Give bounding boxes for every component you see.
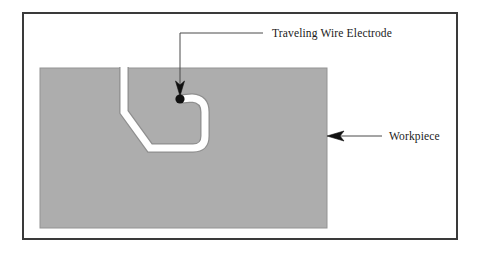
figure-container: Traveling Wire Electrode Workpiece bbox=[0, 0, 481, 254]
diagram-canvas: Traveling Wire Electrode Workpiece bbox=[0, 0, 481, 254]
electrode-label: Traveling Wire Electrode bbox=[272, 27, 392, 40]
workpiece-label: Workpiece bbox=[389, 130, 440, 143]
